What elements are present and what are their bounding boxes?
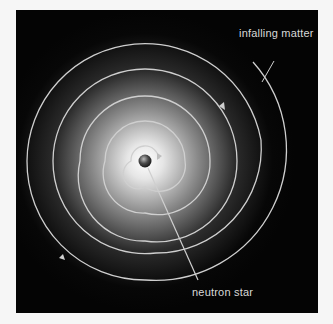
diagram-canvas (16, 10, 318, 313)
neutron-star-icon (139, 155, 152, 168)
label-infalling-matter: infalling matter (239, 27, 314, 39)
accretion-diagram: infalling matter neutron star (16, 10, 318, 313)
label-neutron-star: neutron star (192, 286, 253, 298)
